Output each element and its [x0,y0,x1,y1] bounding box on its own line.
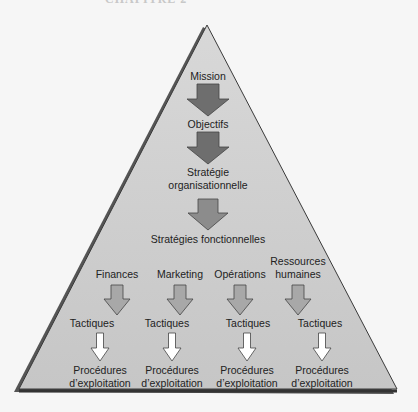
procedures-line2: d’exploitation [216,377,277,390]
label-function-rh-line1: Ressources [270,255,325,268]
label-objectifs: Objectifs [188,118,229,131]
procedures-line1: Procédures [291,364,352,377]
procedures-line1: Procédures [216,364,277,377]
label-function-rh-line2: humaines [270,268,325,281]
label-procedures-rh: Procédures d’exploitation [291,364,352,390]
label-tactiques-marketing: Tactiques [145,317,189,330]
procedures-line2: d’exploitation [291,377,352,390]
pyramid-diagram: CHAPITRE 2 Mission Objectifs Stratégie o… [0,0,418,412]
procedures-line2: d’exploitation [141,377,202,390]
label-mission: Mission [190,70,226,83]
procedures-line2: d’exploitation [69,377,130,390]
label-procedures-finances: Procédures d’exploitation [69,364,130,390]
label-procedures-marketing: Procédures d’exploitation [141,364,202,390]
label-function-operations: Opérations [214,268,265,281]
label-tactiques-finances: Tactiques [70,317,114,330]
procedures-line1: Procédures [69,364,130,377]
label-procedures-operations: Procédures d’exploitation [216,364,277,390]
procedures-line1: Procédures [141,364,202,377]
label-function-finances: Finances [96,268,139,281]
label-strategie-org: Stratégie organisationnelle [168,166,247,192]
label-strategie-org-line2: organisationnelle [168,179,247,192]
pyramid-graphic [0,0,418,412]
label-function-rh: Ressources humaines [270,255,325,281]
label-tactiques-operations: Tactiques [226,317,270,330]
label-strategie-org-line1: Stratégie [168,166,247,179]
label-tactiques-rh: Tactiques [298,317,342,330]
label-function-marketing: Marketing [157,268,203,281]
label-strategies-fonctionnelles: Stratégies fonctionnelles [151,233,265,246]
